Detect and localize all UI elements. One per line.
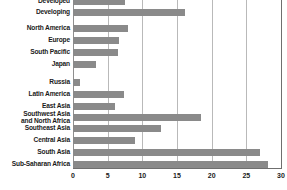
bar-row: North America	[0, 24, 287, 32]
x-tick-label: 5	[106, 172, 110, 179]
x-tick-label: 0	[71, 172, 75, 179]
bar	[73, 79, 80, 86]
bar	[73, 114, 201, 121]
bar	[73, 161, 268, 168]
x-tick-label: 30	[277, 172, 285, 179]
bar-row: Southwest Asia and North Africa	[0, 113, 287, 121]
bar-row: Southeast Asia	[0, 124, 287, 132]
bar-rows: DevelopedDevelopingNorth AmericaEuropeSo…	[0, 0, 287, 168]
bar	[73, 0, 125, 5]
bar-row: Sub-Saharan Africa	[0, 160, 287, 168]
bar-row: Central Asia	[0, 136, 287, 144]
category-label: Southwest Asia and North Africa	[0, 110, 70, 124]
bar	[73, 149, 260, 156]
category-label: South Pacific	[0, 48, 70, 55]
bar	[73, 91, 124, 98]
bar-row: Developed	[0, 0, 287, 5]
bar	[73, 25, 128, 32]
bar	[73, 37, 119, 44]
bar-row: Developing	[0, 8, 287, 16]
bar-chart: DevelopedDevelopingNorth AmericaEuropeSo…	[0, 0, 287, 190]
bar-row: Latin America	[0, 90, 287, 98]
bar	[73, 61, 96, 68]
bar-row: East Asia	[0, 102, 287, 110]
bar	[73, 9, 185, 16]
category-label: North America	[0, 24, 70, 31]
x-tick-label: 15	[173, 172, 181, 179]
bar	[73, 125, 161, 132]
category-label: Developing	[0, 8, 70, 15]
bar-row: Russia	[0, 78, 287, 86]
category-label: South Asia	[0, 148, 70, 155]
bar-row: Europe	[0, 36, 287, 44]
category-label: Central Asia	[0, 136, 70, 143]
bar	[73, 137, 135, 144]
category-label: Japan	[0, 60, 70, 67]
bar-row: South Pacific	[0, 48, 287, 56]
x-axis-tick-labels: 051015202530	[0, 170, 287, 184]
category-label: East Asia	[0, 102, 70, 109]
category-label: Russia	[0, 78, 70, 85]
category-label: Southeast Asia	[0, 124, 70, 131]
bar-row: Japan	[0, 60, 287, 68]
x-axis-line	[73, 168, 282, 169]
category-label: Developed	[0, 0, 70, 4]
category-label: Latin America	[0, 90, 70, 97]
category-label: Sub-Saharan Africa	[0, 160, 70, 167]
x-tick-label: 25	[242, 172, 250, 179]
x-tick-label: 10	[138, 172, 146, 179]
bar	[73, 49, 118, 56]
category-label: Europe	[0, 36, 70, 43]
bar	[73, 103, 115, 110]
x-tick-label: 20	[208, 172, 216, 179]
bar-row: South Asia	[0, 148, 287, 156]
